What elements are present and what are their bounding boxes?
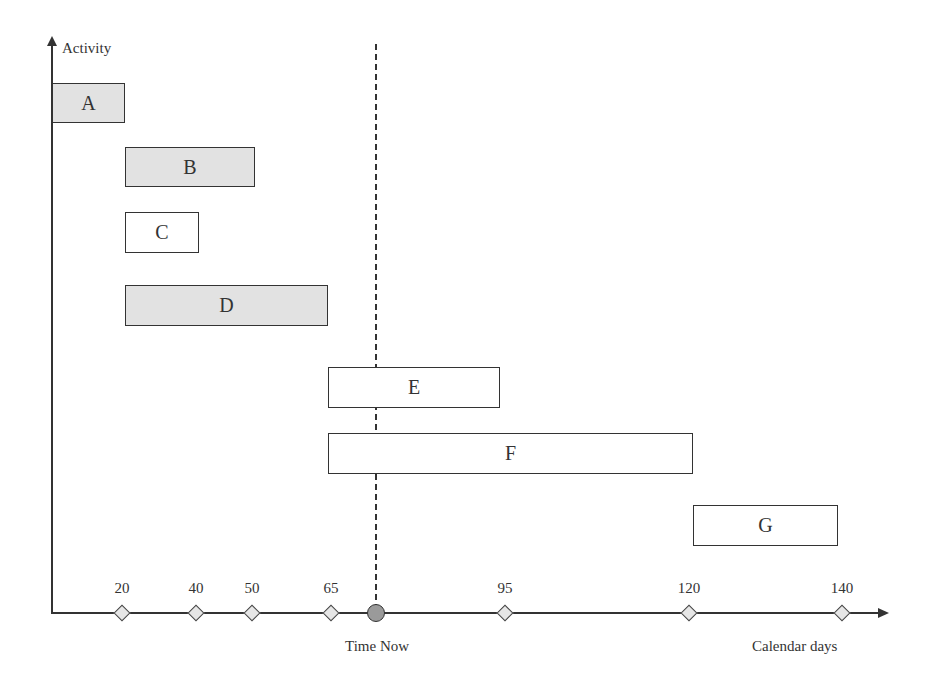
milestone-diamond-icon bbox=[244, 605, 261, 622]
activity-bar-f: F bbox=[328, 433, 693, 474]
milestone-label: 50 bbox=[232, 580, 272, 597]
activity-bar-c: C bbox=[125, 212, 199, 253]
activity-label: F bbox=[505, 442, 516, 465]
activity-bar-d: D bbox=[125, 285, 328, 326]
activity-bar-e: E bbox=[328, 367, 500, 408]
activity-label: G bbox=[758, 514, 772, 537]
milestone-diamond-icon bbox=[497, 605, 514, 622]
milestone-label: 120 bbox=[669, 580, 709, 597]
y-axis bbox=[51, 44, 53, 614]
activity-label: A bbox=[81, 92, 95, 115]
milestone-diamond-icon bbox=[681, 605, 698, 622]
time-now-line bbox=[375, 44, 377, 610]
activity-label: D bbox=[219, 294, 233, 317]
x-axis-arrow-icon bbox=[878, 608, 889, 618]
milestone-diamond-icon bbox=[323, 605, 340, 622]
time-now-marker-icon bbox=[367, 604, 385, 622]
milestone-diamond-icon bbox=[834, 605, 851, 622]
milestone-label: 65 bbox=[311, 580, 351, 597]
y-axis-label: Activity bbox=[62, 40, 111, 57]
activity-label: C bbox=[155, 221, 168, 244]
milestone-diamond-icon bbox=[114, 605, 131, 622]
activity-bar-g: G bbox=[693, 505, 838, 546]
milestone-label: 140 bbox=[822, 580, 862, 597]
activity-label: B bbox=[183, 156, 196, 179]
activity-label: E bbox=[408, 376, 420, 399]
milestone-label: 20 bbox=[102, 580, 142, 597]
y-axis-arrow-icon bbox=[47, 36, 57, 46]
time-now-label: Time Now bbox=[345, 638, 409, 655]
milestone-label: 95 bbox=[485, 580, 525, 597]
x-axis-label: Calendar days bbox=[752, 638, 837, 655]
activity-bar-a: A bbox=[52, 83, 125, 123]
milestone-diamond-icon bbox=[188, 605, 205, 622]
milestone-label: 40 bbox=[176, 580, 216, 597]
activity-bar-b: B bbox=[125, 147, 255, 187]
x-axis bbox=[51, 612, 879, 614]
